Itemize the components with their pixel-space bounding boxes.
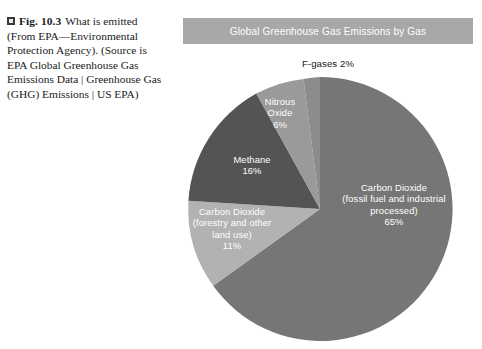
pie-label-value: 16% (204, 165, 300, 176)
pie-chart: Carbon Dioxide (fossil fuel and industri… (174, 0, 482, 349)
pie-label-value: 65% (320, 216, 468, 227)
pie-label-co2-fossil: Carbon Dioxide (fossil fuel and industri… (320, 182, 468, 228)
figure-caption: Fig. 10.3What is emitted (From EPA—Envir… (7, 14, 164, 102)
pie-label-nitrous-oxide: Nitrous Oxide 6% (251, 96, 309, 130)
pie-label-line: land use) (168, 229, 296, 240)
figure-marker-icon (7, 17, 15, 25)
pie-label-methane: Methane 16% (204, 154, 300, 177)
pie-label-line: Methane (204, 154, 300, 165)
figure-number: Fig. 10.3 (19, 15, 61, 27)
pie-label-line: (fossil fuel and industrial (320, 193, 468, 204)
pie-label-co2-forestry: Carbon Dioxide (forestry and other land … (168, 206, 296, 252)
pie-label-line: Carbon Dioxide (168, 206, 296, 217)
pie-label-line: processed) (320, 205, 468, 216)
pie-label-line: Carbon Dioxide (320, 182, 468, 193)
pie-label-line: Oxide (251, 107, 309, 118)
pie-label-line: Nitrous (251, 96, 309, 107)
pie-label-line: (forestry and other (168, 217, 296, 228)
chart-panel: Global Greenhouse Gas Emissions by Gas F… (174, 0, 482, 349)
pie-label-value: 6% (251, 119, 309, 130)
figure-caption-text: What is emitted (From EPA—Environmental … (7, 15, 161, 100)
pie-label-value: 11% (168, 240, 296, 251)
